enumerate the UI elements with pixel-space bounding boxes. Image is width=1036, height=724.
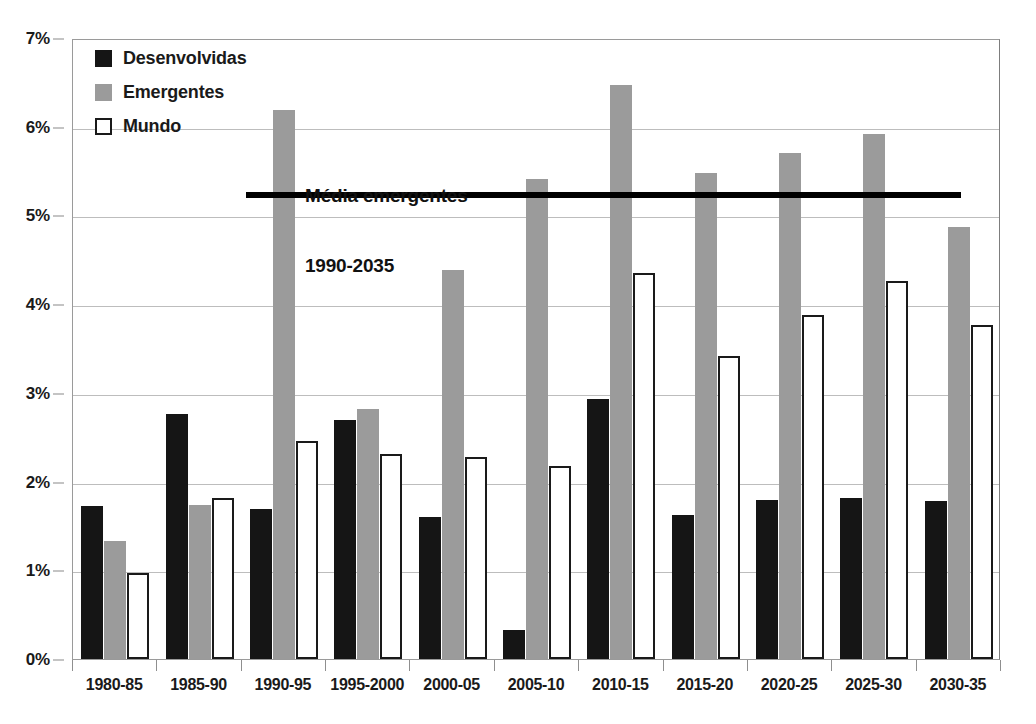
- y-axis-tick-mark: [53, 482, 64, 483]
- bar: [250, 509, 272, 659]
- legend-item[interactable]: Desenvolvidas: [95, 48, 246, 69]
- x-axis-tick-label: 2010-15: [592, 676, 649, 694]
- legend-label: Mundo: [123, 116, 181, 137]
- x-axis-tick-label: 1995-2000: [330, 676, 404, 694]
- legend-label: Desenvolvidas: [123, 48, 246, 69]
- y-axis-tick-label: 7%: [26, 29, 50, 49]
- bar: [718, 356, 740, 659]
- x-axis-tick-label: 2000-05: [423, 676, 480, 694]
- x-axis-tick-mark: [494, 660, 495, 671]
- y-axis-tick-label: 0%: [26, 650, 50, 670]
- legend-item[interactable]: Mundo: [95, 116, 246, 137]
- bar-group: [756, 40, 824, 659]
- bar: [296, 441, 318, 659]
- x-axis-tick-mark: [747, 660, 748, 671]
- y-axis-tick-mark: [53, 39, 64, 40]
- x-axis-tick-mark: [1000, 660, 1001, 671]
- bar: [779, 153, 801, 659]
- y-axis-tick-mark: [53, 393, 64, 394]
- bar-group: [840, 40, 908, 659]
- bar: [81, 506, 103, 659]
- y-axis-tick-label: 2%: [26, 473, 50, 493]
- x-axis-tick-label: 1990-95: [255, 676, 312, 694]
- y-axis-tick-mark: [53, 571, 64, 572]
- bar-group: [334, 40, 402, 659]
- bar: [756, 500, 778, 659]
- bar-group: [250, 40, 318, 659]
- x-axis-tick-mark: [156, 660, 157, 671]
- bar: [802, 315, 824, 659]
- bar: [419, 517, 441, 659]
- annotation-line-2: 1990-2035: [305, 254, 468, 277]
- bar: [549, 466, 571, 659]
- bar: [948, 227, 970, 659]
- legend-swatch-icon: [95, 118, 112, 135]
- legend-label: Emergentes: [123, 82, 224, 103]
- bar: [695, 173, 717, 659]
- y-axis-tick-mark: [53, 305, 64, 306]
- bar: [925, 501, 947, 659]
- x-axis-ticks: [72, 660, 1001, 672]
- bar: [610, 85, 632, 659]
- bar: [166, 414, 188, 659]
- bar: [672, 515, 694, 659]
- y-axis-tick-mark: [53, 127, 64, 128]
- bar: [189, 505, 211, 659]
- average-line-annotation: Média emergentes 1990-2035: [305, 138, 468, 323]
- bar: [380, 454, 402, 659]
- bar: [503, 630, 525, 659]
- x-axis-tick-mark: [325, 660, 326, 671]
- bar: [334, 420, 356, 659]
- y-axis-tick-mark: [53, 660, 64, 661]
- x-axis-tick-label: 1980-85: [86, 676, 143, 694]
- bar: [465, 457, 487, 659]
- x-axis-tick-mark: [409, 660, 410, 671]
- x-axis-tick-label: 2015-20: [676, 676, 733, 694]
- y-axis-tick-label: 4%: [26, 295, 50, 315]
- x-axis-tick-mark: [241, 660, 242, 671]
- x-axis-tick-label: 2025-30: [845, 676, 902, 694]
- x-axis-tick-mark: [663, 660, 664, 671]
- x-axis: 1980-851985-901990-951995-20002000-05200…: [72, 672, 1000, 712]
- y-axis-tick-mark: [53, 216, 64, 217]
- bar: [971, 325, 993, 659]
- bar: [840, 498, 862, 659]
- bar: [526, 179, 548, 659]
- y-axis-tick-label: 3%: [26, 384, 50, 404]
- x-axis-tick-mark: [72, 660, 73, 671]
- x-axis-tick-mark: [831, 660, 832, 671]
- legend-item[interactable]: Emergentes: [95, 82, 246, 103]
- y-axis-tick-label: 1%: [26, 561, 50, 581]
- bar-group: [587, 40, 655, 659]
- x-axis-tick-label: 2005-10: [508, 676, 565, 694]
- y-axis-tick-label: 5%: [26, 206, 50, 226]
- annotation-line-1: Média emergentes: [305, 184, 468, 207]
- bar-group: [925, 40, 993, 659]
- bar: [104, 541, 126, 659]
- bar: [633, 273, 655, 659]
- legend: DesenvolvidasEmergentesMundo: [95, 48, 246, 137]
- bar-group: [419, 40, 487, 659]
- bar: [863, 134, 885, 659]
- x-axis-tick-mark: [578, 660, 579, 671]
- y-axis-tick-label: 6%: [26, 118, 50, 138]
- bar: [357, 409, 379, 659]
- bar-group: [503, 40, 571, 659]
- legend-swatch-icon: [95, 84, 112, 101]
- x-axis-tick-label: 1985-90: [170, 676, 227, 694]
- bar: [587, 399, 609, 659]
- y-axis: 0%1%2%3%4%5%6%7%: [0, 0, 72, 724]
- bar: [442, 270, 464, 659]
- bar-group: [672, 40, 740, 659]
- legend-swatch-icon: [95, 50, 112, 67]
- x-axis-tick-label: 2020-25: [761, 676, 818, 694]
- x-axis-tick-label: 2030-35: [930, 676, 987, 694]
- bar: [886, 281, 908, 659]
- bar: [212, 498, 234, 659]
- x-axis-tick-mark: [916, 660, 917, 671]
- bar: [127, 573, 149, 659]
- bar-chart: 0%1%2%3%4%5%6%7% Média emergentes 1990-2…: [0, 0, 1036, 724]
